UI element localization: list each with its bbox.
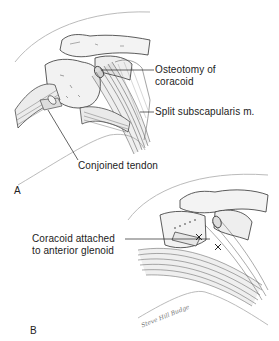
surgical-illustration-figure: Osteotomy of coracoid Split subscapulari… (0, 0, 279, 341)
label-coracoid-attached-to-anterior-glenoid: Coracoid attached to anterior glenoid (32, 233, 115, 257)
panel-letter-b: B (30, 325, 37, 336)
label-osteotomy-of-coracoid: Osteotomy of coracoid (155, 64, 216, 88)
label-conjoined-tendon: Conjoined tendon (78, 160, 158, 172)
label-line: Osteotomy of (155, 64, 216, 76)
label-split-subscapularis: Split subscapularis m. (155, 106, 254, 118)
label-line: coracoid (155, 76, 216, 88)
label-line: Coracoid attached (32, 233, 115, 245)
label-line: to anterior glenoid (32, 245, 115, 257)
panel-letter-a: A (14, 185, 21, 196)
